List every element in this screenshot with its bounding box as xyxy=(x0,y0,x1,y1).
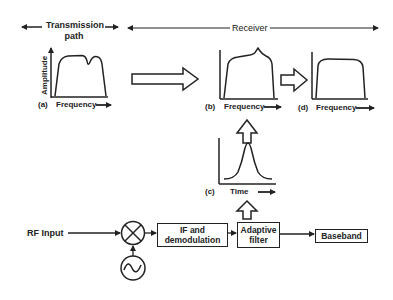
amplitude-axis-label: Amplitude xyxy=(40,49,49,95)
plot-c-xlabel: Time xyxy=(230,188,249,196)
if-demodulation-block: IF and demodulation xyxy=(157,223,228,247)
gaussian-pulse-curve xyxy=(224,143,272,179)
if-demod-line2: demodulation xyxy=(165,235,221,245)
hollow-arrow-filter-to-c xyxy=(237,201,257,219)
plot-d-xlabel: Frequency xyxy=(316,104,356,112)
transmission-label-line1: Transmission xyxy=(46,21,102,30)
plot-d-label: (d) xyxy=(298,104,308,112)
plot-b-label: (b) xyxy=(205,103,215,111)
adaptive-filter-block: Adaptive filter xyxy=(237,222,280,248)
receiver-label: Receiver xyxy=(232,24,268,33)
plot-c xyxy=(219,138,276,192)
plot-a-xlabel: Frequency xyxy=(56,101,96,109)
hollow-arrow-c-to-b xyxy=(237,120,257,143)
hollow-arrow-b-to-d xyxy=(281,69,307,91)
rf-input-label: RF Input xyxy=(27,229,64,238)
adaptive-line1: Adaptive xyxy=(241,225,277,235)
plot-c-label: (c) xyxy=(205,188,215,196)
plot-b-xlabel: Frequency xyxy=(224,103,264,111)
plot-a xyxy=(51,48,111,105)
diagram-canvas xyxy=(0,0,393,300)
transmission-path-label: Transmission path xyxy=(46,21,102,41)
transmission-label-line2: path xyxy=(46,32,102,41)
notched-spectrum-curve xyxy=(55,56,106,97)
adaptive-line2: filter xyxy=(241,235,277,245)
plot-d xyxy=(312,52,374,108)
hollow-arrow-a-to-b xyxy=(132,68,198,90)
flat-spectrum-curve xyxy=(316,59,365,98)
plot-a-label: (a) xyxy=(38,101,48,109)
baseband-label: Baseband xyxy=(321,231,362,241)
peaked-spectrum-curve xyxy=(224,48,274,98)
plot-b xyxy=(220,48,281,107)
baseband-block: Baseband xyxy=(315,229,368,243)
if-demod-line1: IF and xyxy=(165,225,221,235)
